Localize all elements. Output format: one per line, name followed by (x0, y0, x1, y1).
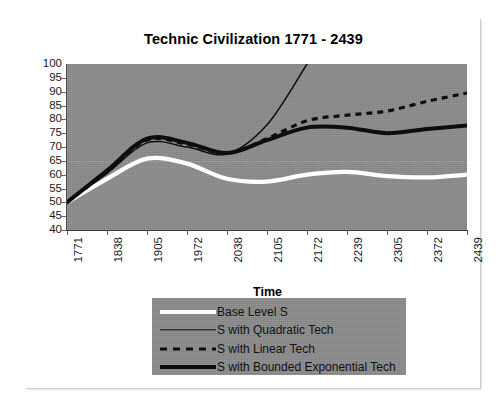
y-axis-tick-label: 55 (28, 183, 62, 194)
x-axis-tick (107, 230, 108, 235)
y-axis-tick-label: 95 (28, 72, 62, 83)
x-axis-tick (307, 230, 308, 235)
y-axis-labels: 404550556065707580859095100 (26, 19, 62, 387)
legend-swatch (160, 343, 216, 355)
series-canvas (67, 64, 467, 230)
legend-item-label: S with Linear Tech (217, 342, 315, 356)
x-axis-tick-label: 2172 (312, 237, 324, 263)
legend-item: Base Level S (152, 302, 406, 321)
chart-card: Technic Civilization 1771 - 2439 4045505… (25, 18, 480, 388)
x-axis-tick (147, 230, 148, 235)
screenshot-canvas: Technic Civilization 1771 - 2439 4045505… (0, 0, 503, 411)
y-axis-tick-label: 75 (28, 127, 62, 138)
y-axis-tick (60, 133, 66, 134)
x-axis-tick (187, 230, 188, 235)
chart-legend: Base Level SS with Quadratic TechS with … (152, 298, 406, 375)
x-axis-tick (227, 230, 228, 235)
x-axis-tick-label: 2439 (472, 237, 484, 263)
legend-item: S with Bounded Exponential Tech (152, 358, 406, 376)
y-axis-tick-label: 80 (28, 113, 62, 124)
y-axis-tick-label: 85 (28, 100, 62, 111)
legend-swatch (160, 324, 216, 336)
y-axis-tick (60, 106, 66, 107)
y-axis-tick (60, 216, 66, 217)
x-axis-tick (67, 230, 68, 235)
y-axis-tick-label: 45 (28, 210, 62, 221)
y-axis-tick-label: 60 (28, 169, 62, 180)
x-axis-tick-label: 2239 (352, 237, 364, 263)
y-axis-tick (60, 161, 66, 162)
x-axis-tick (347, 230, 348, 235)
y-axis-tick (60, 147, 66, 148)
y-axis-tick-label: 70 (28, 141, 62, 152)
legend-swatch (160, 361, 216, 373)
x-axis-tick-label: 2305 (392, 237, 404, 263)
series-line (67, 158, 467, 202)
x-axis-title: Time (67, 285, 468, 299)
chart-title: Technic Civilization 1771 - 2439 (26, 31, 481, 47)
y-axis-tick-label: 100 (28, 58, 62, 69)
x-axis-tick-label: 2038 (232, 237, 244, 263)
y-axis-tick (60, 175, 66, 176)
x-axis-tick (387, 230, 388, 235)
plot-area (67, 64, 467, 230)
x-axis-tick (427, 230, 428, 235)
legend-swatch (160, 306, 216, 318)
y-axis-tick-label: 90 (28, 86, 62, 97)
y-axis-tick (60, 202, 66, 203)
series-line (67, 125, 467, 202)
x-axis-tick-label: 1905 (152, 237, 164, 263)
y-axis-tick (60, 92, 66, 93)
x-axis-tick-label: 1972 (192, 237, 204, 263)
y-axis-tick (60, 119, 66, 120)
x-axis-tick (267, 230, 268, 235)
y-axis-tick-label: 40 (28, 224, 62, 235)
y-axis-tick (60, 189, 66, 190)
x-axis-tick-label: 2372 (432, 237, 444, 263)
x-axis-tick-label: 1838 (112, 237, 124, 263)
series-line (67, 93, 467, 202)
y-axis-tick-label: 65 (28, 155, 62, 166)
legend-item-label: Base Level S (217, 305, 288, 319)
y-axis-tick (60, 230, 66, 231)
x-axis-tick-label: 1771 (72, 237, 84, 263)
y-axis-tick-label: 50 (28, 196, 62, 207)
x-axis-tick (467, 230, 468, 235)
legend-item-label: S with Quadratic Tech (217, 323, 334, 337)
legend-item: S with Quadratic Tech (152, 321, 406, 340)
legend-item: S with Linear Tech (152, 339, 406, 358)
x-axis-tick-label: 2105 (272, 237, 284, 263)
legend-item-label: S with Bounded Exponential Tech (217, 360, 396, 374)
y-axis-tick (60, 78, 66, 79)
